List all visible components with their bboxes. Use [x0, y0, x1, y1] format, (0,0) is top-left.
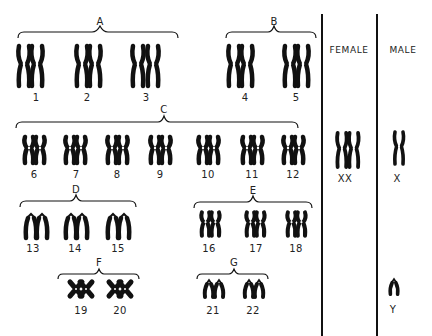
brace-b [226, 26, 316, 38]
brace-g [197, 269, 268, 279]
chromosome-number: 16 [202, 243, 215, 254]
chromosome-number: 17 [249, 243, 262, 254]
group-label-b: B [270, 16, 277, 27]
chromosome-number: 8 [114, 169, 121, 180]
chromosome-number: 10 [201, 169, 214, 180]
female-sex-chromosome-label: XX [338, 173, 352, 184]
chromosome-number: 12 [286, 169, 299, 180]
brace-a [18, 26, 178, 38]
group-label-g: G [230, 257, 238, 268]
group-label-c: C [160, 104, 167, 115]
chromosome-number: 11 [245, 169, 258, 180]
group-label-f: F [96, 257, 102, 268]
chromosome-number: 19 [74, 305, 87, 316]
chromosome-number: 14 [68, 243, 81, 254]
group-label-a: A [96, 16, 103, 27]
chromosome-number: 5 [293, 92, 300, 103]
chromosome-number: 18 [289, 243, 302, 254]
chromosome-number: 1 [33, 92, 40, 103]
chromosome-number: 15 [111, 243, 124, 254]
chromosome-number: 3 [143, 92, 150, 103]
chromosome-number: 13 [26, 243, 39, 254]
male-y-chromosome-label: Y [390, 304, 396, 315]
male-x-chromosome-label: X [393, 173, 400, 184]
group-label-e: E [250, 185, 257, 196]
chromosome-number: 21 [206, 305, 219, 316]
divider-autosome-female [321, 14, 323, 336]
male-column-header: MALE [389, 45, 416, 55]
female-column-header: FEMALE [329, 45, 368, 55]
chromosome-number: 4 [242, 92, 249, 103]
chromosome-number: 6 [31, 169, 38, 180]
brace-c [16, 116, 298, 128]
brace-d [20, 195, 136, 207]
brace-f [58, 269, 139, 279]
brace-e [194, 196, 312, 208]
chromosome-number: 20 [113, 305, 126, 316]
chromosome-number: 9 [157, 169, 164, 180]
chromosome-number: 2 [84, 92, 91, 103]
divider-female-male [376, 14, 378, 336]
chromosome-number: 22 [246, 305, 259, 316]
group-label-d: D [72, 184, 80, 195]
karyotype-diagram: FEMALE MALE A B C D E F G 1 2 3 4 5 6 7 … [0, 0, 432, 336]
chromosome-number: 7 [73, 169, 80, 180]
